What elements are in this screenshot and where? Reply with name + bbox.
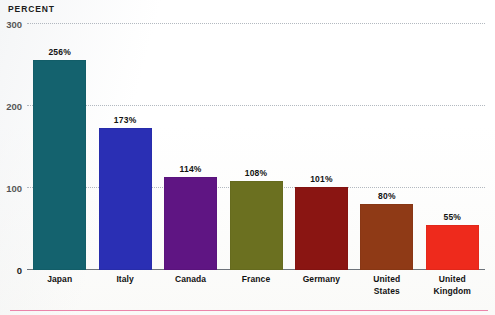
y-axis-tick-label: 300 [6, 19, 22, 30]
bar [230, 181, 283, 270]
bar [164, 177, 217, 270]
x-axis-category-line: United [354, 274, 419, 286]
x-axis-category-line: France [223, 274, 288, 286]
gridline: 300 [27, 23, 485, 24]
x-axis-category-label: Japan [27, 274, 92, 286]
bar-group: 80% [360, 191, 413, 270]
bar-value-label: 256% [48, 47, 71, 57]
bar [426, 225, 479, 270]
bar-chart: PERCENT 0100200300 256%173%114%108%101%8… [0, 0, 495, 315]
x-axis-category-line: Canada [158, 274, 223, 286]
y-axis-tick-label: 100 [6, 183, 22, 194]
bar-value-label: 114% [180, 164, 202, 174]
bar-value-label: 101% [310, 174, 333, 184]
bar-group: 55% [426, 212, 479, 270]
bar [99, 128, 152, 270]
bar-group: 256% [33, 47, 86, 270]
x-axis-category-label: Canada [158, 274, 223, 286]
x-axis-category-label: UnitedStates [354, 274, 419, 297]
bar-value-label: 108% [245, 168, 268, 178]
x-axis-category-line: Kingdom [420, 286, 485, 298]
bar [360, 204, 413, 270]
x-axis-category-label: Italy [92, 274, 157, 286]
bar-group: 114% [164, 164, 217, 270]
y-axis-title: PERCENT [8, 4, 55, 14]
y-axis-tick-label: 200 [6, 101, 22, 112]
y-axis-tick-label: 0 [17, 265, 22, 276]
bar-value-label: 80% [378, 191, 396, 201]
x-axis-labels: JapanItalyCanadaFranceGermanyUnitedState… [27, 274, 485, 314]
plot-area: 0100200300 256%173%114%108%101%80%55% [27, 24, 485, 270]
bar [33, 60, 86, 270]
bar-group: 108% [230, 168, 283, 270]
x-axis-category-label: Germany [289, 274, 354, 286]
x-axis-category-label: UnitedKingdom [420, 274, 485, 297]
x-axis-category-label: France [223, 274, 288, 286]
bar-group: 101% [295, 174, 348, 270]
bottom-rule [10, 310, 488, 312]
x-axis-category-line: Italy [92, 274, 157, 286]
x-axis-category-line: United [420, 274, 485, 286]
bar [295, 187, 348, 270]
bar-value-label: 173% [114, 115, 137, 125]
bar-value-label: 55% [443, 212, 461, 222]
x-axis-category-line: States [354, 286, 419, 298]
gridline: 200 [27, 105, 485, 106]
bar-group: 173% [99, 115, 152, 270]
x-axis-category-line: Japan [27, 274, 92, 286]
x-axis-category-line: Germany [289, 274, 354, 286]
